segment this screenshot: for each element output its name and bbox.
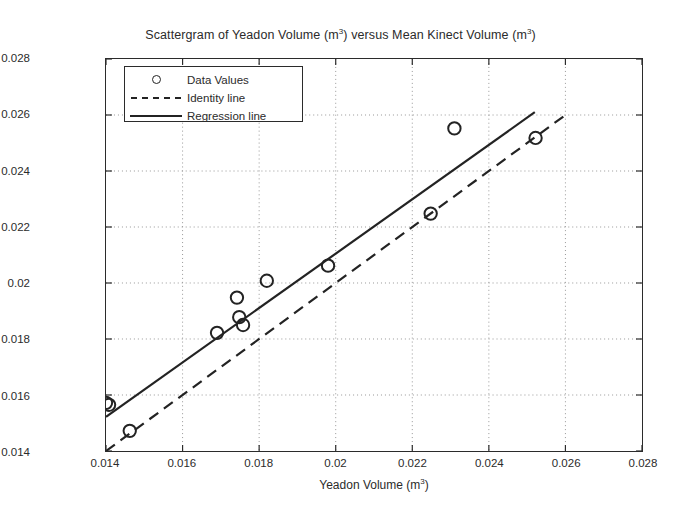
figure-canvas: Scattergram of Yeadon Volume (m3) versus… xyxy=(0,0,681,522)
x-tick-label: 0.018 xyxy=(219,457,299,469)
legend-item-regression-line: Regression line xyxy=(125,107,302,124)
data-point-marker xyxy=(124,425,136,437)
y-tick-label: 0.022 xyxy=(0,221,30,233)
chart-title: Scattergram of Yeadon Volume (m3) versus… xyxy=(0,28,681,42)
y-tick-label: 0.024 xyxy=(0,165,30,177)
legend-label-data-values: Data Values xyxy=(187,74,249,86)
legend-item-identity-line: Identity line xyxy=(125,89,302,106)
x-tick-label: 0.024 xyxy=(449,457,529,469)
dashed-line-icon xyxy=(125,97,187,99)
x-tick-label: 0.026 xyxy=(526,457,606,469)
regression-line xyxy=(106,112,535,417)
identity-line xyxy=(106,115,565,451)
x-tick-label: 0.02 xyxy=(296,457,376,469)
x-axis-label-text: Yeadon Volume (m xyxy=(319,478,420,492)
y-tick-label: 0.02 xyxy=(0,277,30,289)
y-tick-label: 0.028 xyxy=(0,52,30,64)
x-tick-label: 0.014 xyxy=(65,457,145,469)
solid-line-icon xyxy=(125,115,187,117)
x-tick-label: 0.016 xyxy=(142,457,222,469)
x-tick-label: 0.022 xyxy=(372,457,452,469)
data-point-marker xyxy=(448,122,460,134)
legend-label-regression-line: Regression line xyxy=(187,110,266,122)
chart-title-part2: ) versus Mean Kinect Volume (m xyxy=(343,28,527,42)
chart-title-part3: ) xyxy=(531,28,535,42)
x-tick-label: 0.028 xyxy=(603,457,681,469)
x-axis-label-end: ) xyxy=(425,478,429,492)
legend-label-identity-line: Identity line xyxy=(187,92,245,104)
data-point-marker xyxy=(261,275,273,287)
x-axis-label: Yeadon Volume (m3) xyxy=(105,478,643,492)
legend-box: Data Values Identity line Regression lin… xyxy=(124,66,303,122)
y-tick-label: 0.014 xyxy=(0,446,30,458)
y-tick-label: 0.016 xyxy=(0,390,30,402)
chart-title-part1: Scattergram of Yeadon Volume (m xyxy=(145,28,339,42)
data-point-marker xyxy=(529,132,541,144)
open-circle-icon xyxy=(125,75,187,84)
legend-item-data-values: Data Values xyxy=(125,71,302,88)
data-point-marker xyxy=(231,291,243,303)
y-tick-label: 0.018 xyxy=(0,333,30,345)
y-tick-label: 0.026 xyxy=(0,108,30,120)
